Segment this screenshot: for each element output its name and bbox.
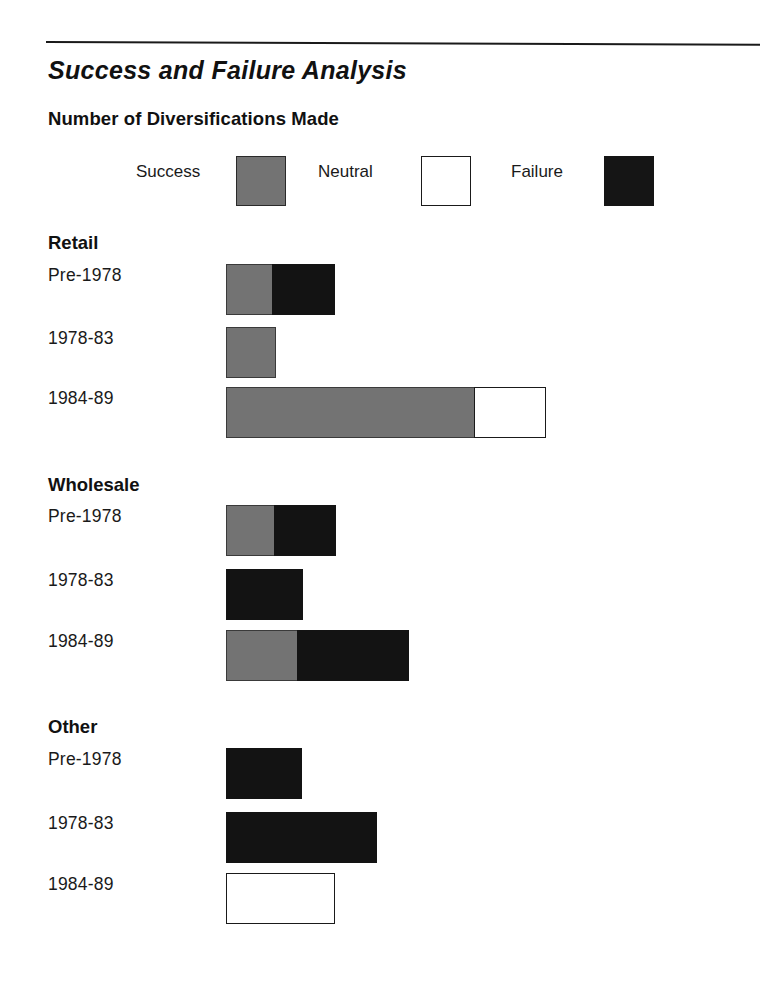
section-heading-other: Other [48,716,97,738]
bar-other-1978-83 [226,812,377,863]
legend-swatch-success [236,156,286,206]
header-rule [46,41,760,46]
bar-segment-failure [226,748,302,799]
bar-segment-failure [274,505,336,556]
chart-page: Success and Failure Analysis Number of D… [0,0,779,988]
row-label: Pre-1978 [48,506,122,527]
row-label: 1978-83 [48,570,114,591]
bar-segment-neutral [226,873,335,924]
bar-retail-pre-1978 [226,264,335,315]
legend-swatch-neutral [421,156,471,206]
bar-segment-success [226,505,275,556]
bar-other-pre-1978 [226,748,302,799]
bar-retail-1978-83 [226,327,276,378]
bar-segment-success [226,264,273,315]
row-label: 1984-89 [48,388,114,409]
bar-wholesale-1984-89 [226,630,409,681]
section-heading-wholesale: Wholesale [48,474,140,496]
bar-wholesale-pre-1978 [226,505,336,556]
legend-swatch-failure [604,156,654,206]
row-label: Pre-1978 [48,265,122,286]
row-label: 1978-83 [48,328,114,349]
page-title: Success and Failure Analysis [48,56,407,85]
bar-segment-failure [226,812,377,863]
bar-other-1984-89 [226,873,335,924]
row-label: 1978-83 [48,813,114,834]
bar-segment-failure [226,569,303,620]
legend-label-neutral: Neutral [318,162,373,182]
bar-segment-neutral [474,387,546,438]
bar-segment-failure [297,630,409,681]
bar-segment-failure [272,264,335,315]
bar-segment-success [226,630,298,681]
row-label: 1984-89 [48,874,114,895]
bar-retail-1984-89 [226,387,546,438]
legend-label-success: Success [136,162,200,182]
bar-segment-success [226,327,276,378]
chart-subtitle: Number of Diversifications Made [48,108,339,130]
row-label: 1984-89 [48,631,114,652]
section-heading-retail: Retail [48,232,98,254]
bar-segment-success [226,387,475,438]
bar-wholesale-1978-83 [226,569,303,620]
legend-label-failure: Failure [511,162,563,182]
row-label: Pre-1978 [48,749,122,770]
